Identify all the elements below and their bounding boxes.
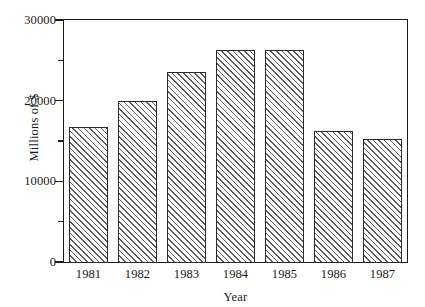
bar[interactable] — [69, 127, 108, 263]
bars-group — [64, 20, 407, 263]
x-axis-tick-label: 1986 — [309, 268, 358, 281]
x-axis-tick-label: 1981 — [64, 268, 113, 281]
bar-slot — [162, 21, 211, 263]
bar-slot — [358, 21, 407, 263]
y-axis-major-tick — [55, 261, 63, 262]
bar-slot — [113, 21, 162, 263]
bar-slot — [64, 21, 113, 263]
bar-slot — [309, 21, 358, 263]
bar[interactable] — [216, 50, 255, 263]
bar[interactable] — [363, 139, 402, 263]
x-axis-title: Year — [63, 290, 408, 305]
x-axis-tick-labels: 1981198219831984198519861987 — [64, 268, 407, 290]
x-axis-tick-label: 1987 — [358, 268, 407, 281]
bar[interactable] — [167, 72, 206, 263]
bar[interactable] — [314, 131, 353, 263]
bar-slot — [211, 21, 260, 263]
y-axis-major-tick — [55, 19, 63, 20]
bar-chart: Millions of $ 0100002000030000 198119821… — [0, 0, 425, 307]
bar[interactable] — [118, 101, 157, 263]
bar-slot — [260, 21, 309, 263]
bar[interactable] — [265, 50, 304, 263]
y-axis-major-tick — [55, 181, 63, 182]
x-axis-tick-label: 1985 — [260, 268, 309, 281]
x-axis-tick-label: 1984 — [211, 268, 260, 281]
x-axis-tick-label: 1982 — [113, 268, 162, 281]
x-axis-tick-label: 1983 — [162, 268, 211, 281]
y-axis-major-tick — [55, 100, 63, 101]
